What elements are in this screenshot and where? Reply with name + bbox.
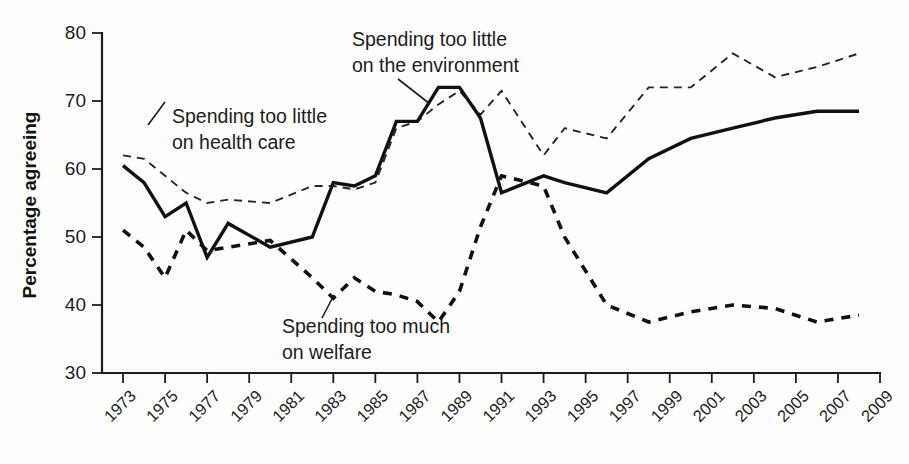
annotation-environment-line2: on the environment xyxy=(352,54,520,76)
annotation-environment: Spending too little on the environment xyxy=(352,28,520,76)
y-tick-label-60: 60 xyxy=(65,158,86,179)
annotation-welfare-line2: on welfare xyxy=(282,341,372,363)
x-tick-label-1991: 1991 xyxy=(479,386,518,425)
x-tick-label-1977: 1977 xyxy=(185,386,224,425)
x-tick-label-1979: 1979 xyxy=(227,386,266,425)
x-tick-group xyxy=(123,373,880,383)
figure-root: 304050607080 197319751977197919811983198… xyxy=(0,0,909,464)
annotation-healthcare: Spending too little on health care xyxy=(172,105,327,153)
x-tick-label-1975: 1975 xyxy=(143,386,182,425)
series-group xyxy=(123,53,859,322)
axes xyxy=(102,33,880,373)
x-tick-label-2003: 2003 xyxy=(731,386,770,425)
y-tick-label-group: 304050607080 xyxy=(65,22,86,383)
y-axis-title: Percentage agreeing xyxy=(19,112,40,299)
chart-canvas: 304050607080 197319751977197919811983198… xyxy=(0,0,909,464)
x-tick-label-1973: 1973 xyxy=(100,386,139,425)
x-tick-label-1993: 1993 xyxy=(521,386,560,425)
x-tick-label-2007: 2007 xyxy=(815,386,854,425)
x-tick-label-2009: 2009 xyxy=(857,386,896,425)
leader-line-healthcare xyxy=(148,102,165,125)
y-tick-label-50: 50 xyxy=(65,226,86,247)
annotation-environment-line1: Spending too little xyxy=(352,28,507,50)
annotation-welfare-line1: Spending too much xyxy=(282,315,450,337)
x-tick-label-1995: 1995 xyxy=(563,386,602,425)
x-tick-label-group: 1973197519771979198119831985198719891991… xyxy=(100,386,896,425)
y-tick-label-30: 30 xyxy=(65,362,86,383)
x-tick-label-2001: 2001 xyxy=(689,386,728,425)
x-tick-label-1983: 1983 xyxy=(311,386,350,425)
annotation-healthcare-line1: Spending too little xyxy=(172,105,327,127)
series-line-welfare xyxy=(123,176,859,322)
x-tick-label-1981: 1981 xyxy=(269,386,308,425)
x-tick-label-1987: 1987 xyxy=(395,386,434,425)
x-tick-label-1989: 1989 xyxy=(437,386,476,425)
y-tick-label-70: 70 xyxy=(65,90,86,111)
x-tick-label-1997: 1997 xyxy=(605,386,644,425)
x-tick-label-1985: 1985 xyxy=(353,386,392,425)
annotation-welfare: Spending too much on welfare xyxy=(282,315,450,363)
y-tick-label-40: 40 xyxy=(65,294,86,315)
x-tick-label-1999: 1999 xyxy=(647,386,686,425)
y-tick-label-80: 80 xyxy=(65,22,86,43)
leader-line-environment xyxy=(398,79,430,104)
x-tick-label-2005: 2005 xyxy=(773,386,812,425)
y-tick-group xyxy=(92,33,102,373)
annotation-healthcare-line2: on health care xyxy=(172,131,296,153)
